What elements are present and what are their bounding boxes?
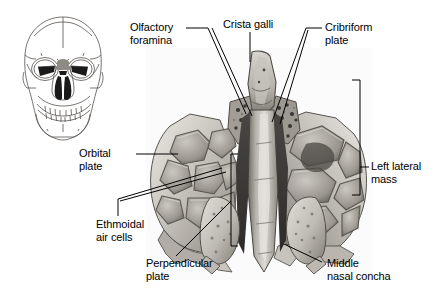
label-crista-galli: Crista galli: [223, 18, 273, 31]
label-cribriform-plate: Cribriform plate: [325, 21, 372, 47]
label-left-lateral-mass: Left lateral mass: [371, 160, 421, 186]
anterior-skull-orientation-drawing: [14, 14, 112, 142]
label-ethmoidal-air-cells: Ethmoidal air cells: [96, 218, 144, 244]
label-middle-nasal-concha: Middle nasal concha: [327, 257, 391, 283]
anatomy-figure: Olfactory foramina Crista galli Cribrifo…: [0, 0, 436, 294]
ethmoid-bone-photograph: [146, 48, 372, 280]
label-orbital-plate: Orbital plate: [79, 147, 111, 173]
label-olfactory-foramina: Olfactory foramina: [130, 21, 173, 47]
label-perpendicular-plate: Perpendicular plate: [146, 257, 213, 283]
